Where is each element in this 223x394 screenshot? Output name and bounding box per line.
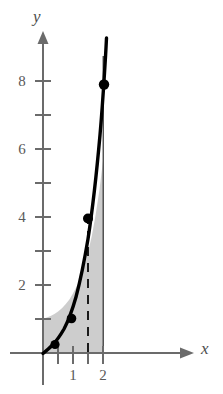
plot-canvas [0,0,223,394]
x-axis-arrowhead [180,348,194,359]
x-axis-label: x [201,340,209,357]
point-x0p5 [50,340,59,349]
y-axis-arrowhead [38,31,49,44]
figure-container: y x 8 6 4 2 1 2 [0,0,223,394]
y-tick-label-4: 4 [14,210,30,225]
y-tick-label-2: 2 [14,278,30,293]
y-tick-label-8: 8 [14,74,30,89]
point-x1p5 [83,214,93,224]
point-x1 [67,314,77,324]
x-tick-label-1: 1 [65,368,81,383]
y-tick-label-6: 6 [14,142,30,157]
point-x2 [99,79,109,89]
y-axis-label: y [33,8,41,25]
x-tick-label-2: 2 [95,368,111,383]
